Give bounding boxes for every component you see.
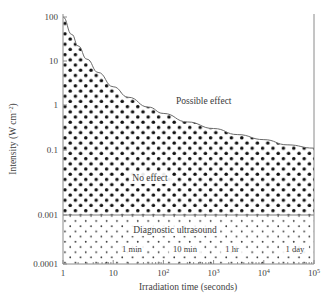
chart-figure: 110102103104105 1001010.10.0010.0001 Pos…	[0, 0, 324, 304]
x-tick-label: 1	[61, 268, 66, 278]
region-diagnostic-ultrasound	[63, 215, 314, 264]
x-axis-title: Irradiation time (seconds)	[139, 282, 237, 293]
y-tick-label: 10	[49, 56, 59, 66]
region-label-no-effect: No effect	[132, 173, 168, 183]
y-axis-title: Intensity (W cm−2)	[7, 103, 19, 174]
time-marker-label: 1 day	[286, 244, 306, 254]
y-tick-label: 0.1	[47, 145, 58, 155]
x-tick-label: 102	[157, 267, 169, 278]
x-tick-label: 10	[109, 268, 119, 278]
x-axis-tick-labels: 110102103104105	[61, 267, 320, 278]
region-label-possible-effect: Possible effect	[176, 96, 232, 106]
y-tick-label: 1	[54, 100, 59, 110]
x-tick-label: 104	[258, 267, 270, 278]
time-marker-label: 1 min	[122, 244, 143, 254]
x-tick-label: 103	[208, 267, 220, 278]
region-label-diagnostic-ultrasound: Diagnostic ultrasound	[133, 225, 217, 235]
y-axis-tick-labels: 1001010.10.0010.0001	[33, 12, 58, 269]
y-axis-title-base: Intensity (W cm	[8, 112, 19, 174]
y-axis-title-tail: )	[8, 103, 19, 106]
y-tick-label: 100	[45, 12, 59, 22]
x-tick-label: 105	[308, 267, 320, 278]
svg-text:Intensity (W cm−2): Intensity (W cm−2)	[7, 103, 19, 174]
y-tick-label: 0.001	[38, 210, 58, 220]
time-marker-label: 1 hr	[225, 244, 239, 254]
y-tick-label: 0.0001	[33, 259, 58, 269]
intensity-vs-time-chart: 110102103104105 1001010.10.0010.0001 Pos…	[0, 0, 324, 304]
time-marker-label: 10 min	[173, 244, 198, 254]
